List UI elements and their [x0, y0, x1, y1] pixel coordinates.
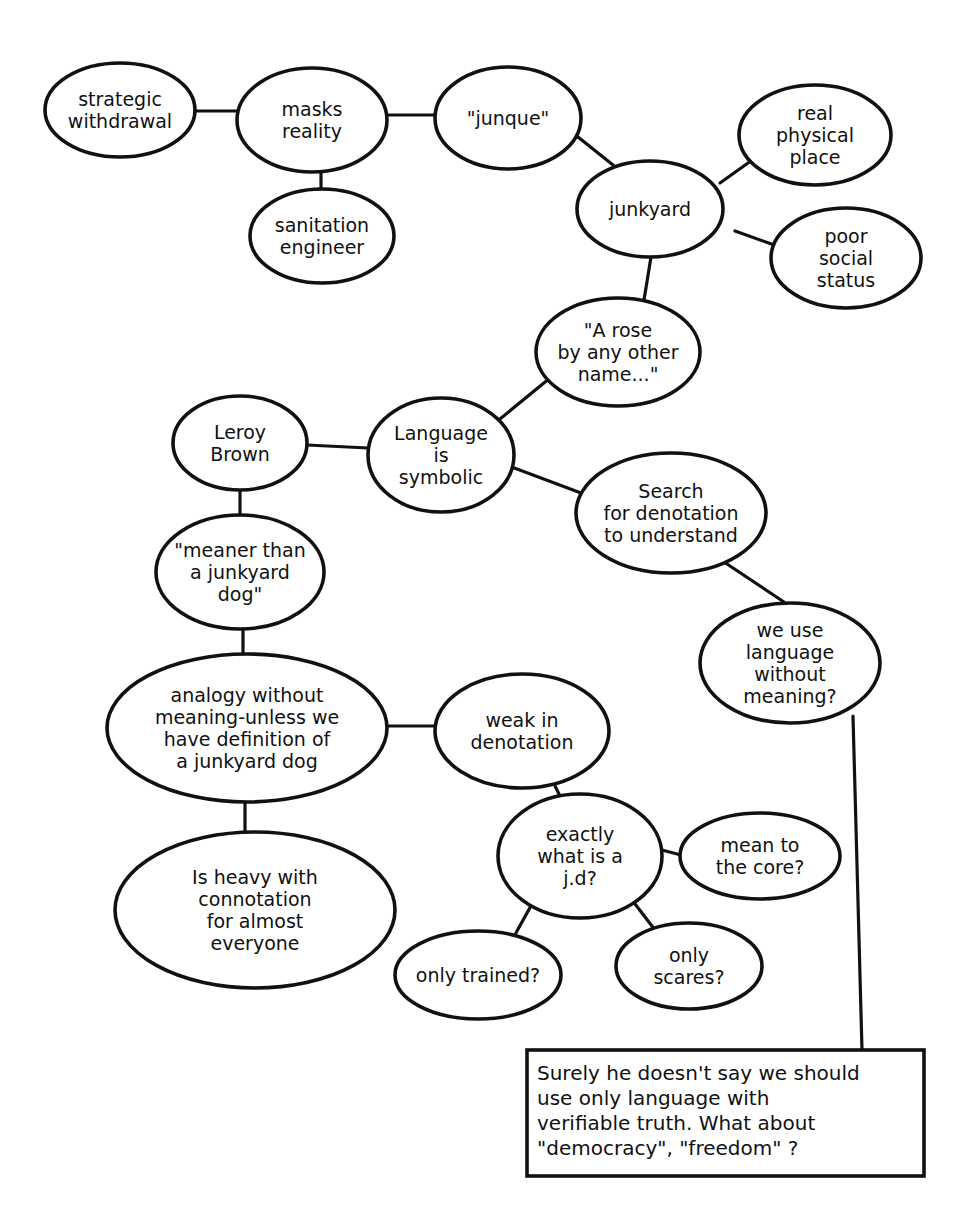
- node-label-line: masks: [282, 98, 343, 120]
- node-poor-social-status: poorsocialstatus: [771, 208, 921, 308]
- node-label-line: the core?: [716, 856, 804, 878]
- edge-junkyard-to-a-rose: [644, 257, 651, 300]
- node-label-line: Search: [638, 480, 703, 502]
- node-label-line: withdrawal: [68, 110, 172, 132]
- node-mean-to-core: mean tothe core?: [680, 813, 840, 899]
- edge-a-rose-to-language-symbolic: [500, 378, 550, 419]
- edge-exactly-what-is-jd-to-only-scares: [632, 900, 655, 930]
- nodes-layer: strategicwithdrawalmasksreality"junque"s…: [45, 63, 924, 1176]
- edge-search-denotation-to-we-use-language: [724, 562, 784, 602]
- node-meaner-than: "meaner thana junkyarddog": [156, 515, 324, 629]
- node-label-line: strategic: [78, 88, 162, 110]
- node-label-line: exactly: [546, 823, 615, 845]
- node-label-line: poor: [824, 225, 867, 247]
- node-label-line: a junkyard dog: [176, 750, 318, 772]
- node-label-line: everyone: [210, 932, 299, 954]
- node-only-scares: onlyscares?: [616, 923, 762, 1009]
- node-junque: "junque": [435, 67, 581, 169]
- note-text-line: verifiable truth. What about: [537, 1111, 815, 1135]
- node-label-line: "A rose: [584, 319, 652, 341]
- node-label-line: to understand: [604, 524, 738, 546]
- node-label-line: meaning?: [743, 685, 836, 707]
- edge-language-symbolic-to-search-denotation: [509, 466, 581, 493]
- node-label-line: for almost: [207, 910, 304, 932]
- node-label-line: j.d?: [562, 867, 596, 889]
- node-label-line: denotation: [471, 731, 574, 753]
- node-leroy-brown: LeroyBrown: [173, 396, 307, 490]
- node-label-line: we use: [757, 619, 824, 641]
- node-label-line: Brown: [210, 443, 270, 465]
- node-exactly-what-is-jd: exactlywhat is aj.d?: [498, 794, 662, 918]
- node-label-line: only trained?: [416, 964, 540, 986]
- edge-junkyard-to-poor-social-status: [735, 231, 777, 246]
- node-junkyard: junkyard: [577, 161, 723, 257]
- node-label-line: Language: [394, 422, 488, 444]
- node-label-line: for denotation: [603, 502, 738, 524]
- node-label-line: connotation: [198, 888, 311, 910]
- node-label-line: is: [433, 444, 448, 466]
- node-label-line: have definition of: [164, 728, 332, 750]
- node-label-line: status: [817, 269, 875, 291]
- node-label-line: analogy without: [170, 684, 323, 706]
- node-label-line: a junkyard: [190, 561, 290, 583]
- node-label-line: reality: [282, 120, 342, 142]
- concept-map-canvas: strategicwithdrawalmasksreality"junque"s…: [0, 0, 976, 1225]
- node-label-line: language: [746, 641, 834, 663]
- edge-we-use-language-to-surely-he-doesnt: [853, 716, 862, 1050]
- node-label-line: real: [797, 102, 833, 124]
- node-label-line: meaning-unless we: [155, 706, 339, 728]
- node-a-rose: "A roseby any othername...": [536, 298, 700, 406]
- node-analogy-without-meaning: analogy withoutmeaning-unless wehave def…: [107, 654, 387, 802]
- node-sanitation-engineer: sanitationengineer: [250, 189, 394, 283]
- node-real-physical-place: realphysicalplace: [739, 85, 891, 185]
- node-search-denotation: Searchfor denotationto understand: [576, 453, 766, 573]
- node-label-line: mean to: [721, 834, 800, 856]
- node-label-line: without: [754, 663, 825, 685]
- node-label-line: what is a: [537, 845, 623, 867]
- node-only-trained: only trained?: [395, 931, 561, 1019]
- node-label-line: junkyard: [608, 198, 691, 220]
- node-label-line: engineer: [280, 236, 364, 258]
- node-label-line: by any other: [558, 341, 679, 363]
- node-heavy-connotation: Is heavy withconnotationfor almosteveryo…: [115, 832, 395, 988]
- node-language-symbolic: Languageissymbolic: [368, 398, 514, 512]
- node-label-line: weak in: [485, 709, 558, 731]
- node-label-line: social: [819, 247, 873, 269]
- node-label-line: Is heavy with: [192, 866, 318, 888]
- node-label-line: "meaner than: [174, 539, 305, 561]
- node-label-line: name...": [578, 363, 659, 385]
- note-text-line: "democracy", "freedom" ?: [537, 1136, 798, 1160]
- node-label-line: symbolic: [399, 466, 483, 488]
- node-label-line: only: [669, 944, 709, 966]
- node-label-line: place: [789, 146, 840, 168]
- edge-leroy-brown-to-language-symbolic: [307, 445, 368, 448]
- node-label-line: "junque": [467, 107, 550, 129]
- node-strategic-withdrawal: strategicwithdrawal: [45, 63, 195, 157]
- node-label-line: dog": [218, 583, 263, 605]
- node-label-line: Leroy: [214, 421, 266, 443]
- node-weak-in-denotation: weak indenotation: [435, 674, 609, 788]
- node-we-use-language: we uselanguagewithoutmeaning?: [700, 603, 880, 723]
- node-surely-he-doesnt: Surely he doesn't say we shoulduse only …: [527, 1050, 924, 1176]
- node-label-line: physical: [776, 124, 854, 146]
- node-label-line: sanitation: [275, 214, 369, 236]
- note-text-line: use only language with: [537, 1086, 769, 1110]
- note-text-line: Surely he doesn't say we should: [537, 1061, 860, 1085]
- node-label-line: scares?: [653, 966, 724, 988]
- node-masks-reality: masksreality: [237, 68, 387, 172]
